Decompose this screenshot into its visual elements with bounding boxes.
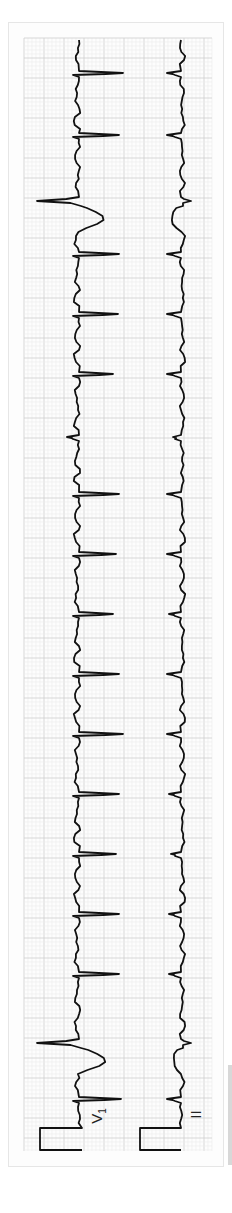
lead-label-v1: V1 [88, 1108, 108, 1124]
ecg-strip [0, 0, 232, 1213]
ecg-trace-ii [140, 40, 191, 1150]
lead-label-ii: II [187, 1110, 204, 1118]
